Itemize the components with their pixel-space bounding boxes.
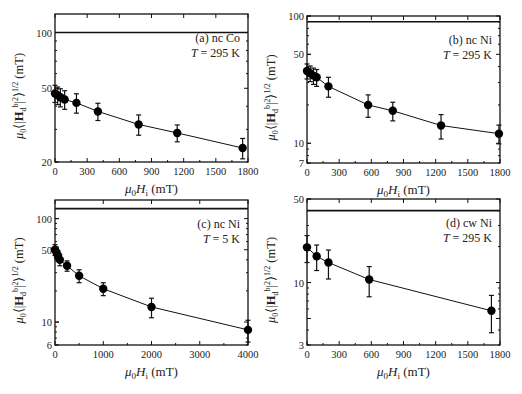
data-point — [487, 307, 495, 315]
y-tick-label: 10 — [42, 317, 53, 328]
temperature-annotation: T = 295 K — [191, 46, 240, 60]
data-point — [312, 73, 320, 81]
data-point — [437, 121, 445, 129]
x-tick-label: 1800 — [490, 167, 511, 178]
data-point — [244, 326, 252, 334]
y-tick-label: 10 — [294, 278, 305, 289]
x-tick-label: 900 — [396, 167, 412, 178]
x-tick-label: 2000 — [141, 349, 162, 360]
y-axis-label: μ0⟨|Hdb|2⟩1/2 (mT) — [263, 54, 280, 141]
x-tick-label: 1200 — [425, 349, 446, 360]
series-line — [307, 247, 491, 310]
x-tick-label: 1800 — [490, 349, 511, 360]
x-tick-label: 600 — [363, 349, 379, 360]
series-line — [55, 93, 243, 148]
series-line — [307, 71, 499, 134]
x-tick-label: 300 — [331, 167, 347, 178]
data-point — [364, 101, 372, 109]
data-point — [147, 303, 155, 311]
x-tick-label: 0 — [304, 349, 309, 360]
data-point — [56, 256, 64, 264]
panel-annotation: (b) nc Ni — [449, 33, 493, 47]
x-tick-label: 1500 — [205, 166, 226, 177]
x-tick-label: 900 — [396, 349, 412, 360]
data-point — [63, 262, 71, 270]
data-point — [303, 243, 311, 251]
chart-d: 030060090012001500180031050(d) cw NiT = … — [263, 194, 511, 381]
x-tick-label: 300 — [331, 349, 347, 360]
x-tick-label: 1500 — [457, 349, 478, 360]
y-tick-label: 100 — [288, 11, 304, 22]
y-axis-label: μ0⟨|Hdb|2⟩1/2 (mT) — [263, 237, 280, 324]
y-tick-label: 100 — [36, 214, 52, 225]
x-tick-label: 0 — [304, 167, 309, 178]
x-axis-label: μ0Hi (mT) — [124, 181, 178, 198]
x-axis-label: μ0Hi (mT) — [124, 364, 178, 381]
y-tick-label: 50 — [42, 245, 53, 256]
y-tick-label: 50 — [294, 194, 305, 205]
y-tick-label: 7 — [299, 158, 304, 169]
x-tick-label: 1200 — [425, 167, 446, 178]
panel-annotation: (a) nc Co — [195, 31, 240, 45]
data-point — [60, 95, 68, 103]
chart-a: 03006009001200150018002050100(a) nc CoT … — [11, 14, 259, 198]
y-axis-label: μ0⟨|Hdb|2⟩1/2 (mT) — [11, 237, 28, 324]
data-point — [238, 144, 246, 152]
x-tick-label: 0 — [52, 349, 57, 360]
x-tick-label: 1000 — [93, 349, 114, 360]
data-point — [99, 285, 107, 293]
x-tick-label: 600 — [363, 167, 379, 178]
data-point — [94, 107, 102, 115]
x-tick-label: 0 — [52, 166, 57, 177]
data-point — [312, 252, 320, 260]
data-point — [75, 272, 83, 280]
x-tick-label: 1800 — [238, 166, 259, 177]
data-point — [324, 258, 332, 266]
y-tick-label: 50 — [294, 49, 305, 60]
y-tick-label: 3 — [299, 340, 304, 351]
y-tick-label: 50 — [42, 83, 53, 94]
data-point — [72, 99, 80, 107]
data-point — [324, 82, 332, 90]
temperature-annotation: T = 5 K — [203, 232, 240, 246]
panel-annotation: (c) nc Ni — [197, 217, 240, 231]
x-tick-label: 300 — [79, 166, 95, 177]
temperature-annotation: T = 295 K — [443, 231, 492, 245]
temperature-annotation: T = 295 K — [443, 48, 492, 62]
x-tick-label: 3000 — [189, 349, 210, 360]
panel-annotation: (d) cw Ni — [446, 216, 493, 230]
y-tick-label: 6 — [47, 340, 52, 351]
data-point — [365, 275, 373, 283]
figure-canvas: 03006009001200150018002050100(a) nc CoT … — [0, 0, 522, 394]
x-tick-label: 900 — [144, 166, 160, 177]
data-point — [389, 107, 397, 115]
chart-b: 030060090012001500180071050100(b) nc NiT… — [263, 11, 511, 199]
y-tick-label: 10 — [294, 138, 305, 149]
x-tick-label: 1500 — [457, 167, 478, 178]
x-tick-label: 4000 — [238, 349, 259, 360]
y-tick-label: 100 — [36, 28, 52, 39]
x-tick-label: 1200 — [173, 166, 194, 177]
y-tick-label: 20 — [42, 157, 53, 168]
data-point — [134, 120, 142, 128]
x-tick-label: 600 — [111, 166, 127, 177]
x-axis-label: μ0Hi (mT) — [376, 364, 430, 381]
y-axis-label: μ0⟨|Hdb|2⟩1/2 (mT) — [11, 53, 28, 140]
chart-c: 0100020003000400061050100(c) nc NiT = 5 … — [11, 200, 259, 381]
data-point — [495, 129, 503, 137]
x-axis-label: μ0Hi (mT) — [376, 182, 430, 199]
data-point — [173, 129, 181, 137]
